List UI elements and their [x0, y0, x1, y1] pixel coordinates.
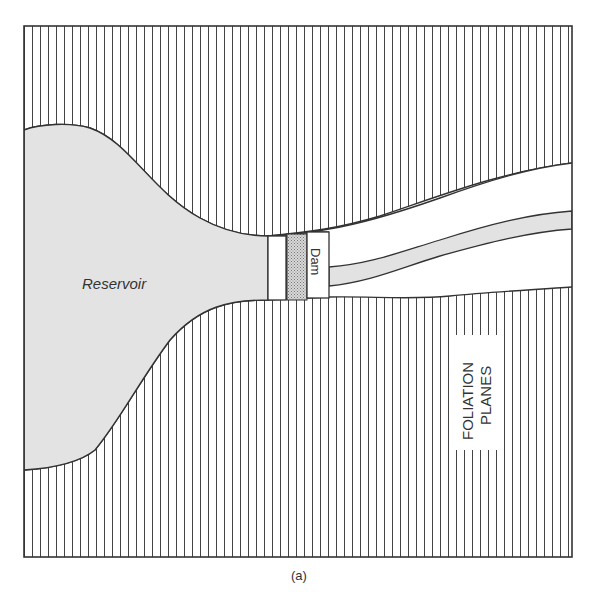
foliation-label-line1: FOLIATION	[459, 362, 476, 440]
dam-foliation-diagram: Reservoir Dam FOLIATION PLANES (a)	[0, 0, 599, 606]
figure-caption: (a)	[291, 568, 307, 583]
foliation-label-line2: PLANES	[477, 366, 494, 425]
reservoir-label: Reservoir	[82, 275, 147, 292]
dam-label: Dam	[308, 248, 323, 275]
